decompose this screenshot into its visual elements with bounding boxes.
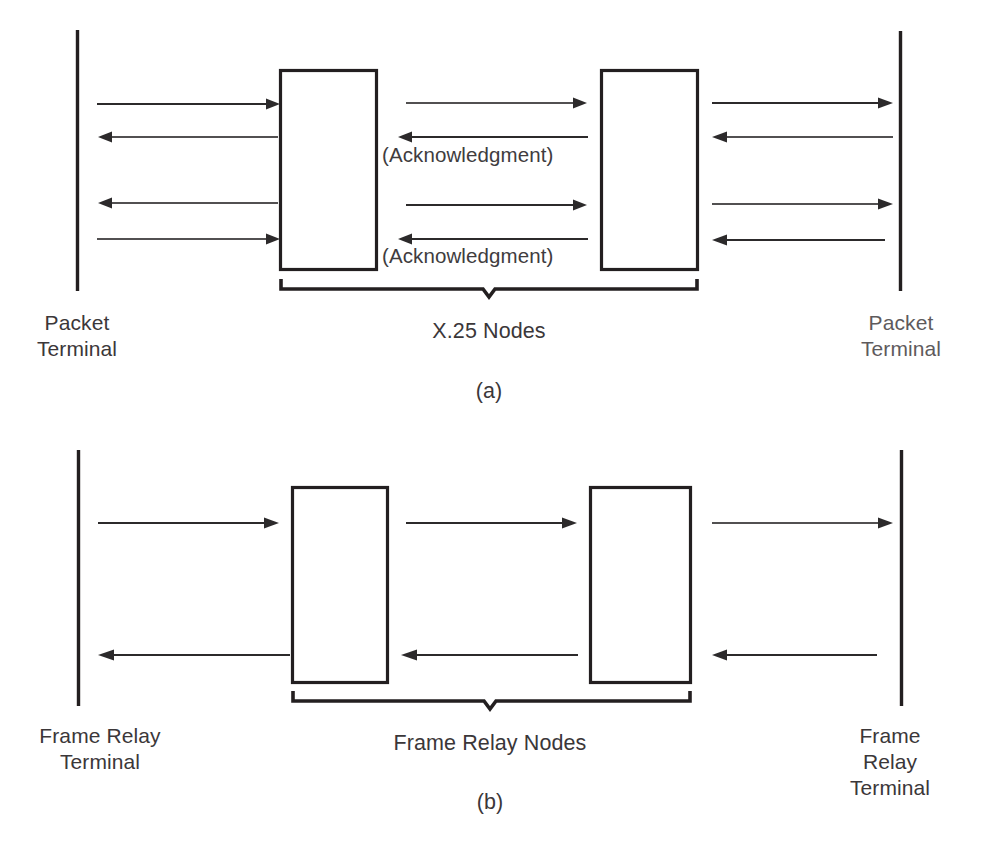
middle-link-arrows-b: [401, 518, 578, 661]
x25-node-box-2: [602, 71, 698, 270]
arrow-head-a-left-1: [266, 99, 280, 110]
arrow-head-a-left-2: [98, 132, 112, 143]
left-terminal-label-a: Packet Terminal: [37, 310, 117, 362]
frame-relay-nodes-brace: [293, 691, 690, 709]
left-link-arrows-b: [98, 518, 290, 661]
frame-relay-nodes-label: Frame Relay Nodes: [394, 730, 587, 756]
arrow-head-a-left-3: [98, 198, 112, 209]
arrow-head-a-right-2: [712, 132, 727, 143]
acknowledgment-label-lower-a: (Acknowledgment): [382, 243, 553, 269]
x25-nodes-brace: [281, 279, 697, 297]
arrow-head-b-right-2: [712, 650, 727, 661]
figure-page: Packet Terminal Packet Terminal (Acknowl…: [0, 0, 1002, 843]
panel-caption-b: (b): [477, 789, 504, 815]
arrow-head-b-mid-2: [401, 650, 417, 661]
panel-caption-a: (a): [476, 378, 503, 404]
x25-node-box-1: [281, 71, 377, 270]
arrow-head-a-left-4: [266, 234, 280, 245]
left-link-arrows-a: [97, 99, 280, 245]
arrow-head-a-right-3: [878, 199, 893, 210]
middle-link-arrows-a: [398, 98, 588, 245]
arrow-head-b-left-1: [264, 518, 279, 529]
right-link-arrows-b: [712, 518, 893, 661]
arrow-head-b-mid-1: [562, 518, 577, 529]
frame-relay-node-box-1: [293, 488, 388, 683]
arrow-head-a-right-1: [878, 98, 893, 109]
arrow-head-b-right-1: [878, 518, 893, 529]
arrow-head-b-left-2: [98, 650, 114, 661]
right-link-arrows-a: [712, 98, 893, 246]
arrow-head-a-mid-3: [573, 200, 587, 211]
acknowledgment-label-upper-a: (Acknowledgment): [382, 142, 553, 168]
right-terminal-label-a: Packet Terminal: [861, 310, 941, 362]
arrow-head-a-mid-2: [398, 132, 412, 143]
left-terminal-label-b: Frame Relay Terminal: [39, 723, 160, 775]
panel-b: [79, 450, 902, 709]
arrow-head-a-mid-1: [573, 98, 587, 109]
frame-relay-node-box-2: [591, 488, 691, 683]
arrow-head-a-right-4: [712, 235, 727, 246]
x25-nodes-label: X.25 Nodes: [432, 318, 545, 344]
protocol-comparison-figure: [0, 0, 1002, 843]
right-terminal-label-b: Frame Relay Terminal: [834, 723, 946, 801]
